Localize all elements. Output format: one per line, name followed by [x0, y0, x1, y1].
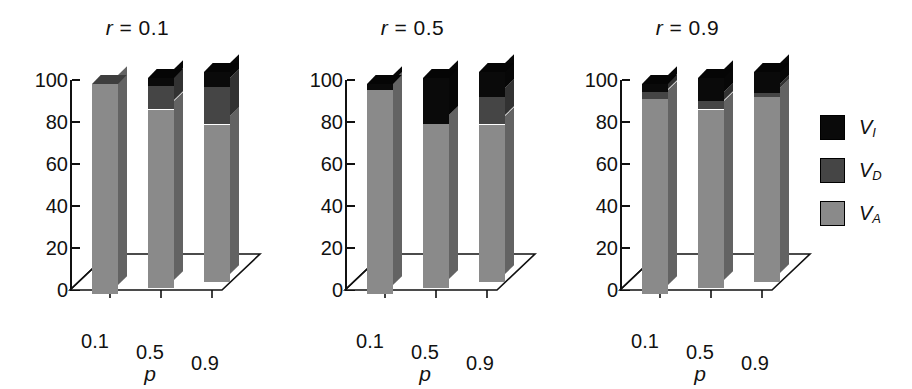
bar-top-face [754, 63, 780, 72]
legend-swatch-vi [820, 115, 845, 140]
y-tick-label: 40 [596, 196, 618, 216]
y-tick-label: 100 [585, 70, 618, 90]
bar-segment-v_a [367, 90, 393, 294]
y-tick-label: 80 [321, 112, 343, 132]
y-tick [622, 205, 630, 207]
legend-item-vd: VD [820, 149, 910, 192]
legend-swatch-va [820, 201, 845, 226]
bar-segment-v_d [642, 92, 668, 98]
bar-segment-v_a [148, 110, 174, 289]
y-tick [347, 163, 355, 165]
y-tick-label: 100 [310, 70, 343, 90]
bar-segment-v_i [642, 84, 668, 92]
y-tick [72, 121, 80, 123]
bar-segment-v_i [698, 78, 724, 101]
bar-segment-v_a [754, 97, 780, 282]
y-tick-label: 0 [332, 280, 343, 300]
y-tick-label: 20 [321, 238, 343, 258]
bar-segment-v_d [754, 93, 780, 97]
bar-segment-v_i [754, 72, 780, 93]
bar-segment-v_d [479, 97, 505, 124]
bar-segment-v_a [698, 110, 724, 289]
bar-top-face [423, 69, 449, 78]
y-tick-label: 40 [321, 196, 343, 216]
bar-segment-side-v_a [668, 81, 677, 285]
bar-segment-v_i [479, 72, 505, 97]
bar-p-0.5 [698, 0, 724, 389]
y-tick [347, 205, 355, 207]
bar-segment-v_i [423, 78, 449, 124]
bar-segment-v_d [148, 86, 174, 109]
y-tick-label: 100 [35, 70, 68, 90]
legend-label-vi: VI [859, 116, 876, 139]
bar-segment-v_i [148, 78, 174, 86]
bar-segment-v_i [204, 72, 230, 87]
y-tick [622, 121, 630, 123]
y-tick-label: 0 [57, 280, 68, 300]
legend-label-va: VA [859, 202, 881, 225]
bar-top-face [479, 63, 505, 72]
bar-segment-v_a [423, 124, 449, 288]
bar-segment-v_a [642, 99, 668, 294]
y-tick-label: 40 [46, 196, 68, 216]
panel-r-0.5: r = 0.50204060801000.10.50.9p [275, 0, 550, 389]
y-tick [72, 205, 80, 207]
bar-p-0.5 [423, 0, 449, 389]
y-tick [347, 79, 355, 81]
bar-p-0.9 [479, 0, 505, 389]
bar-p-0.9 [204, 0, 230, 389]
bar-segment-side-v_a [393, 73, 402, 285]
chart-legend: VI VD VA [820, 106, 910, 235]
y-tick-label: 80 [596, 112, 618, 132]
y-tick-label: 80 [46, 112, 68, 132]
figure-root: r = 0.10204060801000.10.50.9pr = 0.50204… [0, 0, 912, 389]
bar-top-face [698, 69, 724, 78]
plot-area: 0204060801000.10.50.9p [275, 0, 550, 389]
bar-top-face [367, 75, 393, 84]
bar-segment-side-v_a [449, 106, 458, 278]
bar-segment-side-v_a [724, 92, 733, 279]
y-tick-label: 60 [46, 154, 68, 174]
y-tick [622, 79, 630, 81]
bar-segment-side-v_a [174, 92, 183, 279]
y-tick [72, 79, 80, 81]
bar-p-0.1 [642, 0, 668, 389]
bar-segment-side-v_a [780, 79, 789, 272]
bar-segment-v_a [92, 84, 118, 294]
legend-swatch-vd [820, 158, 845, 183]
bar-p-0.1 [367, 0, 393, 389]
bar-top-face [148, 69, 174, 78]
legend-label-vd: VD [859, 159, 882, 182]
bar-top-face [642, 75, 668, 84]
bar-segment-v_i [367, 84, 393, 90]
bar-p-0.5 [148, 0, 174, 389]
bar-segment-side-v_a [230, 107, 239, 273]
y-tick-label: 0 [607, 280, 618, 300]
y-tick-label: 20 [46, 238, 68, 258]
legend-item-vi: VI [820, 106, 910, 149]
y-tick-label: 20 [596, 238, 618, 258]
y-tick [72, 163, 80, 165]
bar-segment-v_d [204, 87, 230, 125]
y-tick [622, 163, 630, 165]
bar-segment-v_d [698, 101, 724, 109]
bar-top-face [92, 75, 118, 84]
y-tick-label: 60 [321, 154, 343, 174]
plot-area: 0204060801000.10.50.9p [550, 0, 825, 389]
bar-segment-v_a [204, 125, 230, 283]
bar-top-face [204, 63, 230, 72]
y-tick-label: 60 [596, 154, 618, 174]
bar-p-0.9 [754, 0, 780, 389]
legend-item-va: VA [820, 192, 910, 235]
panel-r-0.9: r = 0.90204060801000.10.50.9p [550, 0, 825, 389]
plot-area: 0204060801000.10.50.9p [0, 0, 275, 389]
panel-r-0.1: r = 0.10204060801000.10.50.9p [0, 0, 275, 389]
bar-segment-side-v_a [118, 66, 127, 285]
y-tick [347, 121, 355, 123]
bar-segment-side-v_a [505, 107, 514, 273]
bar-segment-v_a [479, 125, 505, 283]
bar-p-0.1 [92, 0, 118, 389]
